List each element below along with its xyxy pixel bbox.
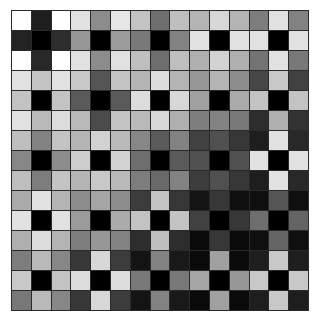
grid-cell — [131, 151, 150, 170]
grid-cell — [32, 231, 51, 250]
grid-cell — [12, 291, 31, 310]
grid-cell — [190, 51, 209, 70]
grid-cell — [12, 271, 31, 290]
grid-cell — [131, 291, 150, 310]
grid-cell — [230, 151, 249, 170]
grid-cell — [91, 171, 110, 190]
grid-cell — [210, 291, 229, 310]
grid-cell — [210, 11, 229, 30]
grid-cell — [71, 291, 90, 310]
grid-cell — [269, 51, 288, 70]
grid-cell — [111, 171, 130, 190]
grid-cell — [111, 191, 130, 210]
grid-cell — [210, 131, 229, 150]
grid-cell — [52, 71, 71, 90]
grid-cell — [32, 71, 51, 90]
grid-cell — [32, 11, 51, 30]
grid-cell — [12, 151, 31, 170]
grid-cell — [111, 151, 130, 170]
grid-cell — [170, 91, 189, 110]
grid-cell — [71, 111, 90, 130]
grid-cell — [32, 51, 51, 70]
grid-cell — [230, 91, 249, 110]
grid-cell — [170, 131, 189, 150]
grid-cell — [131, 231, 150, 250]
grid-cell — [52, 31, 71, 50]
grid-cell — [170, 211, 189, 230]
grid-cell — [71, 251, 90, 270]
grid-cell — [210, 71, 229, 90]
grid-cell — [91, 191, 110, 210]
grid-cell — [131, 31, 150, 50]
grid-cell — [289, 251, 308, 270]
grid-cell — [71, 191, 90, 210]
grid-cell — [190, 291, 209, 310]
grid-cell — [230, 11, 249, 30]
grid-cell — [91, 231, 110, 250]
grid-cell — [71, 91, 90, 110]
grid-cell — [12, 211, 31, 230]
grid-cell — [289, 91, 308, 110]
grid-cell — [131, 111, 150, 130]
grid-cell — [71, 211, 90, 230]
grid-cell — [250, 91, 269, 110]
grid-cell — [111, 71, 130, 90]
grid-cell — [289, 151, 308, 170]
grid-cell — [52, 51, 71, 70]
grid-cell — [131, 251, 150, 270]
grid-cell — [289, 291, 308, 310]
grid-cell — [170, 51, 189, 70]
grid-cell — [71, 131, 90, 150]
grid-cell — [111, 11, 130, 30]
grid-cell — [52, 211, 71, 230]
grid-cell — [210, 111, 229, 130]
grid-cell — [32, 91, 51, 110]
grid-cell — [269, 171, 288, 190]
grid-cell — [250, 71, 269, 90]
grid-cell — [269, 271, 288, 290]
grid-cell — [52, 111, 71, 130]
grid-cell — [269, 111, 288, 130]
grid-cell — [151, 131, 170, 150]
grid-cell — [71, 71, 90, 90]
grid-cell — [151, 111, 170, 130]
grid-cell — [52, 131, 71, 150]
grid-cell — [170, 11, 189, 30]
grid-cell — [32, 211, 51, 230]
grid-cell — [190, 31, 209, 50]
grid-cell — [289, 191, 308, 210]
grid-cell — [250, 291, 269, 310]
grid-cell — [269, 11, 288, 30]
grid-cell — [151, 71, 170, 90]
grid-cell — [151, 151, 170, 170]
grid-cell — [230, 191, 249, 210]
grid-cell — [52, 11, 71, 30]
grid-cell — [190, 131, 209, 150]
grid-cell — [32, 251, 51, 270]
grid-cell — [230, 131, 249, 150]
grid-cell — [250, 11, 269, 30]
grid-cell — [91, 271, 110, 290]
grid-cell — [250, 251, 269, 270]
grid-cell — [91, 31, 110, 50]
grid-cell — [12, 91, 31, 110]
grid-cell — [190, 191, 209, 210]
grid-cell — [151, 31, 170, 50]
grid-cell — [32, 291, 51, 310]
grid-cell — [71, 31, 90, 50]
grid-cell — [131, 131, 150, 150]
grid-cell — [210, 151, 229, 170]
grid-cell — [91, 91, 110, 110]
grid-cell — [170, 291, 189, 310]
grid-cell — [12, 251, 31, 270]
grid-cell — [131, 91, 150, 110]
grid-cell — [52, 271, 71, 290]
grid-cell — [151, 291, 170, 310]
grid-cell — [170, 191, 189, 210]
grid-cell — [170, 31, 189, 50]
grid-cell — [250, 151, 269, 170]
grid-cell — [289, 231, 308, 250]
grid-cell — [32, 31, 51, 50]
grid-cell — [210, 271, 229, 290]
grid-cell — [250, 51, 269, 70]
